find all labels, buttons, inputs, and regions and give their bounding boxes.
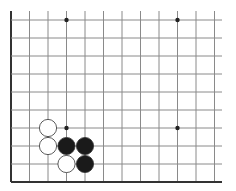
star-point-icon [64, 18, 68, 22]
white-stone[interactable] [58, 155, 75, 172]
white-stone[interactable] [39, 137, 56, 154]
board-grid [11, 11, 222, 182]
black-stone[interactable] [58, 137, 75, 154]
star-point-icon [175, 126, 179, 130]
black-stone[interactable] [76, 155, 93, 172]
star-point-icon [175, 18, 179, 22]
black-stone[interactable] [76, 137, 93, 154]
white-stone[interactable] [39, 119, 56, 136]
go-board [0, 0, 236, 191]
star-point-icon [64, 126, 68, 130]
